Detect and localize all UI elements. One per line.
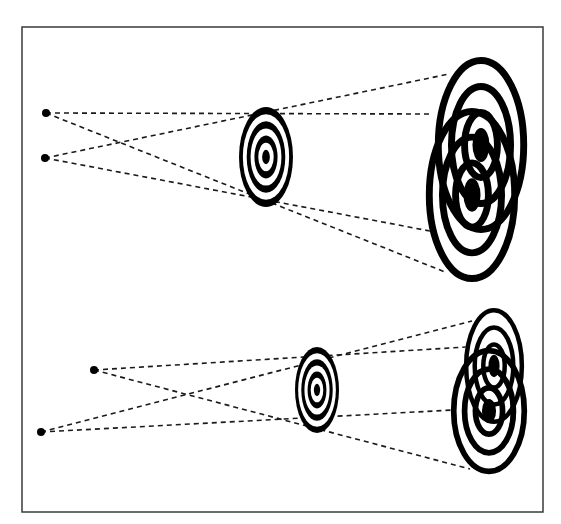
light-rays [41, 321, 472, 469]
dashed-ray [94, 347, 466, 370]
point-source [42, 109, 50, 117]
dashed-ray [94, 370, 470, 469]
zone-plate-aperture [239, 107, 293, 207]
point-source [90, 366, 98, 374]
projected-zone-pattern-1 [438, 61, 523, 230]
dashed-ray [45, 158, 430, 231]
point-source [41, 154, 49, 162]
projected-shadows [451, 306, 527, 476]
projected-zone-pattern-2 [454, 351, 525, 472]
projected-zone-pattern-2 [429, 111, 514, 278]
zone-band-black [262, 150, 270, 164]
panel-bottom [37, 306, 527, 476]
zone-center [463, 178, 480, 211]
dashed-ray [41, 321, 472, 432]
zone-plate-aperture [295, 347, 339, 433]
point-source [37, 428, 45, 436]
zone-center [482, 399, 496, 423]
zone-plate-projection-diagram [0, 0, 561, 524]
panel-top [41, 54, 527, 285]
projected-shadows [426, 54, 527, 285]
dashed-ray [41, 410, 453, 432]
dashed-ray [46, 113, 431, 114]
zone-band-black [314, 384, 320, 396]
